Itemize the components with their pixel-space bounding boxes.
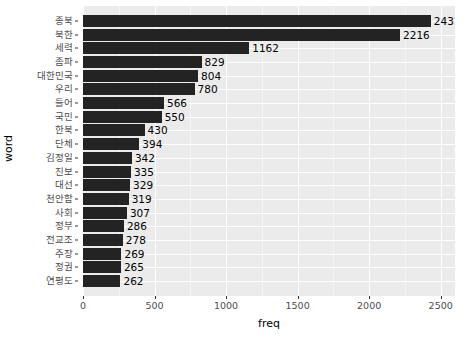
bar (83, 234, 123, 246)
bar (83, 166, 131, 178)
y-axis-tick-mark (75, 103, 78, 104)
bar (83, 15, 431, 27)
x-axis-tick-label: 2500 (429, 301, 453, 311)
y-axis-tick-label: 정부 (55, 221, 73, 231)
y-axis-title: word (0, 0, 18, 296)
bar (83, 152, 132, 164)
y-axis-tick-label: 전교조 (46, 235, 73, 245)
y-axis-tick-mark (75, 144, 78, 145)
bar (83, 97, 164, 109)
y-axis-tick-label: 단체 (55, 139, 73, 149)
y-axis-tick-mark (75, 130, 78, 131)
y-axis-tick-label: 사회 (55, 208, 73, 218)
bar-value-label: 566 (167, 98, 187, 109)
bar-chart: word 종북북한세력좀파대한민국우리들어국민한북단체김정일진보대선천안함사회정… (0, 0, 466, 339)
y-axis-tick-label: 종북 (55, 16, 73, 26)
bar (83, 111, 162, 123)
bar (83, 124, 145, 136)
y-axis-tick-label: 북한 (55, 30, 73, 40)
bar (83, 193, 129, 205)
y-axis-tick-mark (75, 198, 78, 199)
y-axis-tick-mark (75, 89, 78, 90)
bar-value-label: 2216 (403, 29, 430, 40)
gridline-major-vertical (441, 6, 442, 296)
y-axis-tick-label: 주장 (55, 249, 73, 259)
bar-value-label: 394 (142, 139, 162, 150)
y-axis-tick-mark (75, 116, 78, 117)
x-axis-tick-mark (155, 296, 156, 299)
x-axis-tick-mark (441, 296, 442, 299)
x-axis-tick-mark (298, 296, 299, 299)
bar (83, 56, 202, 68)
bar-value-label: 286 (127, 221, 147, 232)
bar-value-label: 780 (198, 84, 218, 95)
y-axis-tick-mark (75, 253, 78, 254)
bar-value-label: 269 (124, 248, 144, 259)
bar (83, 29, 400, 41)
bar-value-label: 265 (124, 262, 144, 273)
bar-value-label: 329 (133, 180, 153, 191)
y-axis-tick-mark (75, 171, 78, 172)
bar-value-label: 262 (123, 276, 143, 287)
x-axis-tick-label: 500 (145, 301, 163, 311)
y-axis-tick-mark (75, 226, 78, 227)
bar-value-label: 307 (130, 207, 150, 218)
y-axis-tick-mark (75, 75, 78, 76)
bar (83, 42, 249, 54)
bar-value-label: 829 (205, 57, 225, 68)
y-axis-tick-labels: 종북북한세력좀파대한민국우리들어국민한북단체김정일진보대선천안함사회정부전교조주… (18, 12, 78, 296)
x-axis-tick-mark (226, 296, 227, 299)
bar-value-label: 430 (148, 125, 168, 136)
y-axis-tick-mark (75, 48, 78, 49)
x-axis-tick-label: 1000 (214, 301, 238, 311)
y-axis-tick-mark (75, 267, 78, 268)
x-axis-tick-label: 1500 (286, 301, 310, 311)
x-axis-tick-label: 0 (80, 301, 86, 311)
y-axis-tick-mark (75, 21, 78, 22)
y-axis-tick-label: 진보 (55, 167, 73, 177)
y-axis-tick-mark (75, 62, 78, 63)
bar (83, 83, 195, 95)
y-axis-tick-label: 정권 (55, 263, 73, 273)
x-axis-tick-mark (83, 296, 84, 299)
bar (83, 179, 130, 191)
x-axis-tick-mark (369, 296, 370, 299)
y-axis-tick-label: 대선 (55, 180, 73, 190)
y-axis-tick-label: 들어 (55, 98, 73, 108)
bar-value-label: 804 (201, 71, 221, 82)
y-axis-tick-mark (75, 212, 78, 213)
y-axis-tick-label: 한북 (55, 126, 73, 136)
y-axis-tick-mark (75, 239, 78, 240)
x-axis-ticks: 05001000150020002500 (83, 296, 455, 316)
gridline-major-vertical (369, 6, 370, 296)
bar (83, 261, 121, 273)
y-axis-tick-mark (75, 34, 78, 35)
y-axis-tick-label: 국민 (55, 112, 73, 122)
bar (83, 207, 127, 219)
y-axis-tick-mark (75, 157, 78, 158)
y-axis-tick-label: 연평도 (46, 276, 73, 286)
bar (83, 138, 139, 150)
bar-value-label: 278 (126, 235, 146, 246)
x-axis-title: freq (83, 317, 455, 330)
bar-value-label: 2431 (434, 16, 455, 27)
y-axis-tick-label: 천안함 (46, 194, 73, 204)
bar-value-label: 319 (132, 194, 152, 205)
bar-value-label: 1162 (252, 43, 279, 54)
y-axis-tick-label: 우리 (55, 85, 73, 95)
y-axis-tick-label: 좀파 (55, 57, 73, 67)
bar (83, 275, 120, 287)
y-axis-tick-label: 세력 (55, 44, 73, 54)
bar (83, 70, 198, 82)
bar (83, 220, 124, 232)
gridline-major-vertical (298, 6, 299, 296)
x-axis-tick-label: 2000 (357, 301, 381, 311)
gridline-minor-vertical (405, 6, 406, 296)
gridline-minor-vertical (333, 6, 334, 296)
y-axis-tick-label: 대한민국 (37, 71, 73, 81)
bar-value-label: 550 (165, 112, 185, 123)
y-axis-tick-label: 김정일 (46, 153, 73, 163)
y-axis-tick-mark (75, 185, 78, 186)
bar-value-label: 342 (135, 153, 155, 164)
y-axis-tick-mark (75, 280, 78, 281)
